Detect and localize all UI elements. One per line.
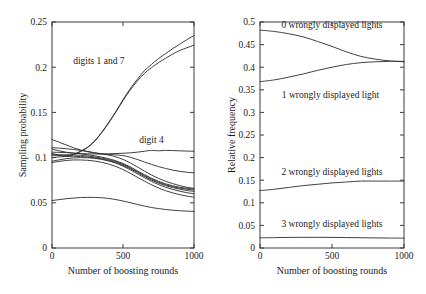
- right-panel: 00.050.10.150.20.250.30.350.40.450.50500…: [226, 17, 414, 276]
- curve-annotation: 1 wrongly displayed light: [282, 90, 380, 100]
- y-tick-label: 0.15: [30, 108, 47, 118]
- y-tick-label: 0.3: [243, 108, 255, 118]
- plot-frame: [260, 22, 404, 248]
- left-y-axis-title: Sampling probability: [17, 93, 28, 178]
- y-tick-label: 0: [42, 243, 47, 253]
- x-tick-label: 1000: [185, 251, 204, 261]
- right-x-axis-title: Number of boosting rounds: [277, 265, 387, 276]
- y-tick-label: 0.2: [243, 153, 255, 163]
- y-tick-label: 0.05: [30, 198, 47, 208]
- x-tick-label: 500: [325, 251, 340, 261]
- y-tick-label: 0.05: [238, 221, 255, 231]
- x-tick-label: 1000: [395, 251, 414, 261]
- y-tick-label: 0.25: [238, 130, 255, 140]
- curve-annotation: digits 1 and 7: [73, 56, 125, 66]
- y-tick-label: 0.2: [35, 63, 47, 73]
- y-tick-label: 0.1: [243, 198, 255, 208]
- data-curve: [52, 148, 194, 189]
- right-y-axis-title: Relative frequency: [226, 97, 237, 173]
- y-tick-label: 0: [250, 243, 255, 253]
- curve-annotation: 0 wrongly displayed lights: [281, 20, 382, 30]
- data-curve: [260, 30, 404, 62]
- y-tick-label: 0.35: [238, 85, 255, 95]
- y-tick-label: 0.45: [238, 40, 255, 50]
- y-tick-label: 0.4: [243, 63, 255, 73]
- x-tick-label: 0: [258, 251, 263, 261]
- figure-container: 00.050.10.150.20.2505001000digits 1 and …: [0, 0, 426, 294]
- y-tick-label: 0.5: [243, 17, 255, 27]
- right-panel-curves: [260, 30, 404, 238]
- data-curve: [52, 197, 194, 211]
- left-panel: 00.050.10.150.20.2505001000digits 1 and …: [17, 17, 204, 276]
- left-panel-labels: 00.050.10.150.20.2505001000digits 1 and …: [30, 17, 203, 261]
- data-curve: [260, 237, 404, 238]
- x-tick-label: 0: [50, 251, 55, 261]
- y-tick-label: 0.15: [238, 176, 255, 186]
- curve-annotation: digit 4: [139, 135, 164, 145]
- right-panel-axes: [260, 22, 404, 248]
- dual-line-chart: 00.050.10.150.20.2505001000digits 1 and …: [0, 0, 426, 294]
- data-curve: [52, 36, 194, 156]
- right-panel-labels: 00.050.10.150.20.250.30.350.40.450.50500…: [238, 17, 413, 261]
- data-curve: [260, 181, 404, 191]
- x-tick-label: 500: [116, 251, 131, 261]
- curve-annotation: 2 wrongly displayed lights: [281, 167, 382, 177]
- y-tick-label: 0.1: [35, 153, 47, 163]
- curve-annotation: 3 wrongly displayed lights: [281, 219, 382, 229]
- y-tick-label: 0.25: [30, 17, 47, 27]
- data-curve: [260, 61, 404, 81]
- left-x-axis-title: Number of boosting rounds: [68, 265, 178, 276]
